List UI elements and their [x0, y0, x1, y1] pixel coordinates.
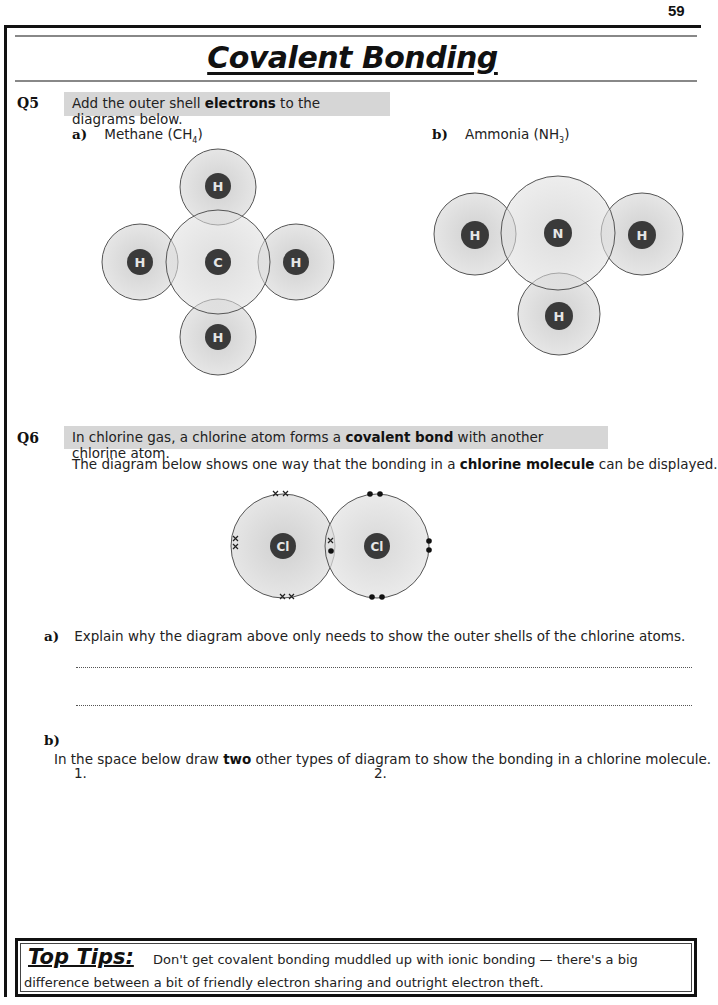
- chlorine-molecule-diagram: Cl Cl: [231, 491, 432, 600]
- q6-part-a-question: Explain why the diagram above only needs…: [74, 628, 685, 644]
- drawing-area-2[interactable]: [370, 790, 690, 930]
- drawing-slot-2-label: 2.: [374, 765, 387, 781]
- atom-symbol: H: [213, 330, 224, 345]
- atom-symbol: H: [554, 309, 565, 324]
- q6-part-b-bold: two: [223, 751, 251, 767]
- drawing-area-1[interactable]: [70, 790, 360, 930]
- answer-line-1[interactable]: [76, 667, 692, 668]
- part-label: b): [44, 732, 60, 748]
- question-number-q6: Q6: [17, 430, 39, 446]
- q6-intro: In chlorine gas, a chlorine atom forms a…: [64, 426, 608, 449]
- atom-symbol: H: [213, 179, 224, 194]
- atom-symbol: H: [470, 228, 481, 243]
- atom-symbol: H: [135, 255, 146, 270]
- q6-part-a: a) Explain why the diagram above only ne…: [44, 626, 685, 645]
- atom-symbol: N: [553, 226, 564, 241]
- part-label: a): [44, 628, 59, 644]
- atom-symbol: Cl: [371, 540, 384, 554]
- atom-symbol: H: [637, 228, 648, 243]
- top-tips-title: Top Tips:: [28, 945, 134, 969]
- atom-symbol: Cl: [277, 540, 290, 554]
- answer-line-2[interactable]: [76, 705, 692, 706]
- top-tips-text-2: difference between a bit of friendly ele…: [24, 975, 544, 990]
- atom-symbol: H: [291, 255, 302, 270]
- q6-intro-bold: covalent bond: [345, 429, 453, 445]
- q6-part-b-text-end: other types of diagram to show the bondi…: [251, 751, 711, 767]
- q6-part-b: b) In the space below draw two other typ…: [44, 730, 711, 768]
- atom-symbol: C: [213, 255, 223, 270]
- q6-description: The diagram below shows one way that the…: [72, 456, 718, 472]
- methane-diagram[interactable]: H H C H H: [102, 149, 334, 375]
- drawing-slot-1-label: 1.: [74, 765, 87, 781]
- q6-description-text: The diagram below shows one way that the…: [72, 456, 460, 472]
- ammonia-diagram[interactable]: H N H H: [434, 176, 683, 355]
- q6-description-bold: chlorine molecule: [460, 456, 595, 472]
- top-tips-text-1: Don't get covalent bonding muddled up wi…: [153, 952, 638, 967]
- q6-intro-text: In chlorine gas, a chlorine atom forms a: [72, 429, 345, 445]
- top-tips-line-1: Top Tips: Don't get covalent bonding mud…: [28, 945, 638, 969]
- top-tips-box: Top Tips: Don't get covalent bonding mud…: [15, 938, 697, 997]
- q6-description-text-end: can be displayed.: [595, 456, 718, 472]
